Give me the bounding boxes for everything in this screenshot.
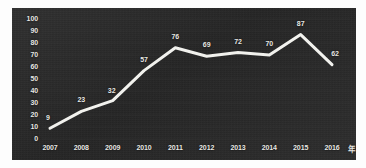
x-tick-label: 2016 [317, 144, 347, 151]
x-tick-label: 2009 [98, 144, 128, 151]
data-point-label: 32 [101, 87, 123, 94]
x-tick-label: 2014 [254, 144, 284, 151]
y-tick-label: 90 [18, 27, 38, 34]
data-point-label: 62 [324, 50, 346, 57]
y-tick-label: 80 [18, 39, 38, 46]
x-tick-label: 2007 [35, 144, 65, 151]
data-point-label: 87 [290, 20, 312, 27]
chart-plot-panel: 0102030405060708090100 20072008200920102… [12, 8, 356, 160]
chart-figure: 0102030405060708090100 20072008200920102… [0, 0, 366, 168]
x-axis-unit-label: 年 [348, 143, 355, 154]
data-point-label: 57 [133, 56, 155, 63]
y-tick-label: 20 [18, 111, 38, 118]
x-tick-label: 2011 [160, 144, 190, 151]
y-tick-label: 40 [18, 87, 38, 94]
line-chart-svg [12, 8, 356, 160]
x-tick-label: 2012 [192, 144, 222, 151]
y-tick-label: 60 [18, 63, 38, 70]
x-tick-label: 2013 [223, 144, 253, 151]
data-point-label: 76 [164, 33, 186, 40]
y-tick-label: 0 [18, 135, 38, 142]
x-tick-label: 2015 [286, 144, 316, 151]
data-point-label: 70 [258, 40, 280, 47]
y-tick-label: 100 [18, 15, 38, 22]
y-tick-label: 50 [18, 75, 38, 82]
y-tick-label: 10 [18, 123, 38, 130]
x-tick-label: 2008 [66, 144, 96, 151]
data-point-label: 72 [227, 38, 249, 45]
y-tick-label: 30 [18, 99, 38, 106]
data-line-series [50, 35, 332, 129]
data-point-label: 23 [70, 96, 92, 103]
data-point-label: 69 [196, 41, 218, 48]
y-tick-label: 70 [18, 51, 38, 58]
x-tick-label: 2010 [129, 144, 159, 151]
data-point-label: 9 [37, 114, 59, 121]
